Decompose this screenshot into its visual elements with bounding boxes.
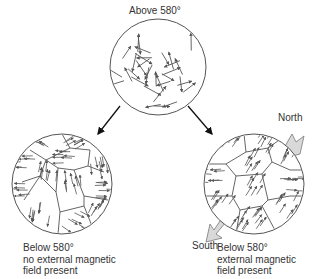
top-circle-random <box>108 19 206 115</box>
label-above-580: Above 580° <box>129 5 181 17</box>
caption-line: field present <box>23 265 116 277</box>
caption-line: external magnetic <box>217 254 296 266</box>
label-north: North <box>278 112 302 124</box>
magnetic-domain-diagram <box>0 0 316 279</box>
caption-line: field present <box>217 265 296 277</box>
caption-line: Below 580° <box>217 242 296 254</box>
bottom-right-circle-aligned <box>197 128 309 242</box>
caption-bottom-left: Below 580° no external magnetic field pr… <box>23 242 116 277</box>
caption-line: no external magnetic <box>23 254 116 266</box>
arrow-to-right <box>188 106 212 134</box>
arrow-to-left <box>98 106 120 134</box>
label-south: South <box>192 240 218 252</box>
caption-bottom-right: Below 580° external magnetic field prese… <box>217 242 296 277</box>
caption-line: Below 580° <box>23 242 116 254</box>
bottom-left-circle-domains <box>3 128 118 235</box>
